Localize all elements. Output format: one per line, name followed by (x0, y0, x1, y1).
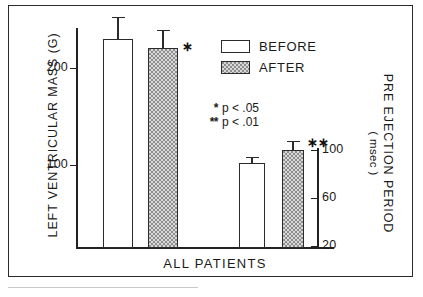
chart-plot-area: 200 100 100 60 20 ∗ (0, 0, 423, 297)
significance-key: * p < .05 ** p < .01 (196, 101, 259, 129)
errorbar-pep-after (282, 141, 304, 150)
significance-key-row-1: * p < .05 (196, 101, 259, 115)
right-tick-60 (311, 198, 318, 199)
errorbar-cap (287, 141, 300, 142)
errorbar-stem (162, 30, 163, 48)
right-axis-title-text: PRE EJECTION PERIOD (381, 74, 395, 233)
legend-swatch-after-icon (221, 61, 250, 74)
legend: BEFORE AFTER (221, 38, 317, 80)
errorbar-stem (117, 17, 118, 39)
left-tick-200 (70, 68, 77, 69)
bar-lvmass-after (148, 48, 178, 248)
errorbar-pep-before (239, 157, 265, 163)
errorbar-cap (112, 17, 125, 18)
figure: 200 100 100 60 20 ∗ (0, 0, 423, 297)
right-ticklabel-60: 60 (322, 191, 336, 204)
significance-key-stars-2: ** (196, 115, 218, 129)
significance-mark-lvmass-after: ∗ (182, 40, 193, 53)
right-tick-20 (311, 246, 318, 247)
left-tick-100 (70, 165, 77, 166)
x-axis-label: ALL PATIENTS (120, 256, 310, 271)
significance-key-stars-1: * (196, 101, 218, 115)
bar-pep-after (282, 150, 304, 248)
errorbar-cap (157, 30, 170, 31)
bar-lvmass-before (103, 39, 133, 248)
legend-swatch-before-icon (221, 40, 250, 53)
legend-label-before: BEFORE (259, 39, 317, 54)
bar-pep-before (239, 163, 265, 248)
legend-entry-after: AFTER (221, 59, 317, 76)
right-axis-title: PRE EJECTION PERIOD ( msec ) (368, 39, 395, 269)
legend-label-after: AFTER (259, 60, 305, 75)
left-axis-line (76, 28, 78, 248)
errorbar-lvmass-before (103, 17, 133, 39)
significance-key-text-1: p < .05 (222, 101, 259, 115)
right-ticklabel-20: 20 (322, 239, 336, 252)
left-axis-title: LEFT VENTRICULAR MASS (G) (46, 20, 60, 250)
significance-mark-pep-after: ∗∗ (307, 136, 328, 149)
right-tick-100 (311, 150, 318, 151)
errorbar-cap (246, 157, 259, 158)
right-axis-title-units: ( msec ) (368, 39, 380, 269)
significance-key-row-2: ** p < .01 (196, 115, 259, 129)
legend-entry-before: BEFORE (221, 38, 317, 55)
significance-key-text-2: p < .01 (222, 115, 259, 129)
errorbar-lvmass-after (148, 30, 178, 48)
